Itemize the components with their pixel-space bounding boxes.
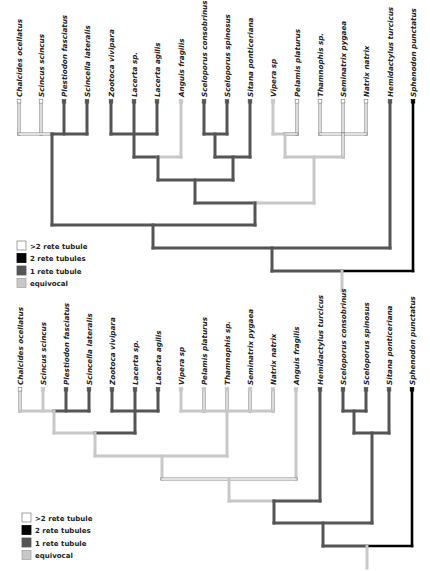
taxon-label: Pelamis platurus: [293, 28, 302, 97]
tip-marker: [156, 388, 160, 392]
taxon-label: Sitana ponticeriana: [385, 305, 394, 385]
phylogeny-panel-bottom: Chalcides ocellatusScincus scincusPlesti…: [16, 288, 417, 568]
taxon-label: Plestiodon fasciatus: [60, 14, 69, 97]
legend-label: 1 rete tubule: [35, 540, 87, 548]
tip-marker: [109, 100, 113, 104]
taxon-label: Anguis fragilis: [177, 38, 186, 98]
tip-marker: [411, 100, 415, 104]
taxon-label: Zootoca vivipara: [107, 29, 116, 98]
tip-marker: [295, 100, 299, 104]
tip-marker: [341, 100, 345, 104]
legend-label: >2 rete tubule: [30, 243, 88, 251]
tree-tips: Chalcides ocellatusScincus scincusPlesti…: [16, 288, 417, 391]
taxon-label: Lacerta sp.: [131, 340, 140, 385]
taxon-label: Chalcides ocellatus: [15, 18, 24, 97]
taxon-label: Scincus scincus: [39, 321, 48, 385]
taxon-label: Vipera sp: [269, 59, 278, 97]
tip-marker: [341, 388, 345, 392]
tip-marker: [17, 100, 21, 104]
legend: >2 rete tubule2 rete tubules1 rete tubul…: [17, 241, 88, 288]
tip-marker: [294, 388, 298, 392]
tip-marker: [202, 100, 206, 104]
taxon-label: Sitana ponticeriana: [246, 17, 255, 97]
legend-label: >2 rete tubule: [35, 515, 93, 523]
tip-marker: [202, 388, 206, 392]
tip-marker: [62, 100, 66, 104]
legend-swatch-two: [22, 526, 31, 535]
taxon-label: Pelamis platurus: [200, 316, 209, 385]
tip-marker: [388, 100, 392, 104]
taxon-label: Anguis fragilis: [292, 326, 301, 386]
legend: >2 rete tubule2 rete tubules1 rete tubul…: [22, 513, 93, 560]
taxon-label: Natrix natrix: [269, 333, 278, 385]
tip-marker: [271, 100, 275, 104]
taxon-label: Sceloporus spinosus: [223, 13, 232, 97]
tip-marker: [387, 388, 391, 392]
tip-marker: [85, 100, 89, 104]
legend-swatch-two: [17, 254, 26, 263]
taxon-label: Scincella lateralis: [85, 313, 94, 385]
legend-label: 1 rete tubule: [30, 268, 82, 276]
tip-marker: [225, 388, 229, 392]
tip-marker: [132, 100, 136, 104]
taxon-label: Lacerta agilis: [154, 330, 163, 385]
legend-label: equivocal: [30, 280, 68, 288]
taxon-label: Scincella lateralis: [83, 25, 92, 97]
taxon-label: Sceloporus consobrinus: [200, 0, 209, 97]
tip-marker: [18, 388, 22, 392]
tip-marker: [64, 388, 68, 392]
tip-marker: [110, 388, 114, 392]
tip-marker: [271, 388, 275, 392]
tip-marker: [87, 388, 91, 392]
tip-marker: [318, 388, 322, 392]
taxon-label: Vipera sp: [177, 347, 186, 385]
tip-marker: [248, 100, 252, 104]
legend-swatch-equivocal: [17, 279, 26, 288]
tip-marker: [155, 100, 159, 104]
legend-label: 2 rete tubules: [30, 255, 86, 263]
legend-swatch-one: [17, 266, 26, 275]
legend-swatch-equivocal: [22, 551, 31, 560]
taxon-label: Seminatrix pygaea: [339, 21, 348, 97]
legend-label: equivocal: [35, 552, 73, 560]
taxon-label: Seminatrix pygaea: [246, 309, 255, 385]
taxon-label: Lacerta agilis: [153, 42, 162, 97]
taxon-label: Thamnophis sp.: [223, 321, 232, 385]
taxon-label: Hemidactylus turcicus: [316, 294, 325, 385]
legend-swatch-gt2: [22, 513, 31, 522]
legend-label: 2 rete tubules: [35, 527, 91, 535]
tip-marker: [364, 388, 368, 392]
phylogeny-panel-top: Chalcides ocellatusScincus scincusPlesti…: [15, 0, 418, 291]
tip-marker: [179, 100, 183, 104]
taxon-label: Sphenodon punctatus: [408, 295, 417, 385]
taxon-label: Zootoca vivipara: [108, 317, 117, 386]
tip-marker: [133, 388, 137, 392]
phylogeny-figure: Chalcides ocellatusScincus scincusPlesti…: [0, 0, 430, 571]
tip-marker: [179, 388, 183, 392]
tip-marker: [41, 388, 45, 392]
taxon-label: Plestiodon fasciatus: [62, 302, 71, 385]
taxon-label: Natrix natrix: [362, 45, 371, 97]
taxon-label: Thamnophis sp.: [316, 33, 325, 97]
tip-marker: [318, 100, 322, 104]
tip-marker: [410, 388, 414, 392]
taxon-label: Sceloporus consobrinus: [339, 288, 348, 385]
tip-marker: [364, 100, 368, 104]
tip-marker: [225, 100, 229, 104]
tip-marker: [248, 388, 252, 392]
legend-swatch-one: [22, 538, 31, 547]
tree-tips: Chalcides ocellatusScincus scincusPlesti…: [15, 0, 418, 103]
taxon-label: Scincus scincus: [37, 33, 46, 97]
legend-swatch-gt2: [17, 241, 26, 250]
tip-marker: [39, 100, 43, 104]
taxon-label: Lacerta sp.: [130, 52, 139, 97]
taxon-label: Sphenodon punctatus: [409, 7, 418, 97]
taxon-label: Chalcides ocellatus: [16, 306, 25, 385]
taxon-label: Hemidactylus turcicus: [386, 6, 395, 97]
taxon-label: Sceloporus spinosus: [362, 301, 371, 385]
